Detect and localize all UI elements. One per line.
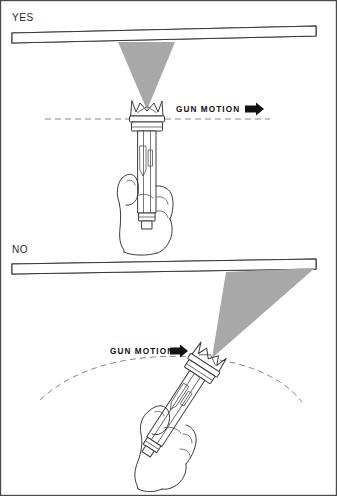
panel-label-no: NO [12,244,28,255]
travel-guide-arc-no [40,356,302,402]
spray-fan-yes [118,42,175,110]
panel-yes: YES GUN MOTION [12,12,316,255]
panel-label-yes: YES [12,12,34,23]
gun-motion-label-no: GUN MOTION [110,347,174,356]
gun-motion-annotation-no: GUN MOTION [110,345,188,358]
spray-gun-yes [130,101,165,229]
gun-motion-label-yes: GUN MOTION [176,105,240,114]
hatched-panel-icon-yes [12,26,316,43]
gun-motion-annotation-yes: GUN MOTION [176,103,264,116]
spray-fan-no [212,268,315,358]
arrow-right-solid-icon-yes [245,103,264,116]
spray-gun-no [131,341,228,464]
panel-no: NO GUN MOTION [12,244,316,492]
figure-canvas: YES GUN MOTION [0,0,337,496]
spray-gun-technique-figure: YES GUN MOTION [0,0,337,496]
